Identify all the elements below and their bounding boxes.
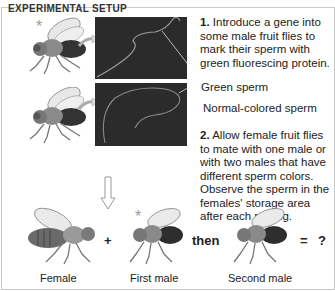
diagram-heading: EXPERIMENTAL SETUP [8, 3, 127, 14]
first-male-caption: First male [130, 272, 178, 284]
step-1-text: 1. Introduce a gene into some male fruit… [200, 16, 335, 70]
female-fly-icon [18, 206, 100, 268]
female-caption: Female [40, 272, 77, 284]
equals-sign: = [300, 233, 308, 248]
normal-sperm-micrograph [95, 83, 187, 146]
green-sperm-micrograph [95, 17, 187, 79]
green-sperm-label: Green sperm [201, 81, 268, 93]
plus-sign: + [104, 233, 112, 248]
svg-text:*: * [36, 18, 42, 35]
normal-sperm-label: Normal-colored sperm [203, 102, 317, 114]
result-question-mark: ? [318, 233, 326, 248]
second-male-caption: Second male [228, 272, 292, 284]
second-male-fly-icon [222, 204, 294, 268]
first-male-fly-icon: * [118, 204, 190, 268]
then-label: then [192, 233, 219, 248]
down-arrow-icon [100, 176, 116, 210]
svg-text:*: * [135, 208, 141, 225]
